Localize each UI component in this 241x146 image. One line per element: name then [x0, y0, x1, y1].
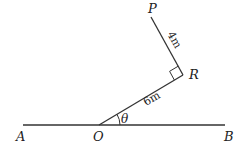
label-p: P — [147, 1, 157, 16]
segment-or — [99, 75, 183, 125]
diagram: A O B R P θ 6m 4m — [0, 0, 241, 146]
label-theta: θ — [121, 112, 129, 126]
label-b: B — [223, 129, 234, 144]
label-or-length: 6m — [141, 88, 163, 108]
label-r: R — [188, 67, 199, 82]
angle-arc — [117, 114, 120, 125]
label-o: O — [93, 129, 104, 144]
label-a: A — [15, 129, 25, 144]
